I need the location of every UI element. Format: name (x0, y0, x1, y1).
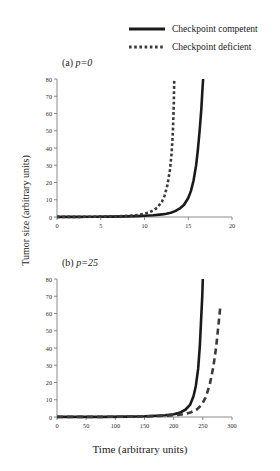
y-tick-label: 50 (46, 327, 52, 334)
chart-panel-b: (b) p=25 0102030405060708005010015020025… (0, 255, 280, 435)
y-tick-label: 0 (49, 214, 52, 221)
x-tick-label: 150 (140, 422, 149, 429)
panel-a-title-param: p=0 (76, 57, 93, 68)
y-tick-label: 20 (46, 179, 52, 186)
series-line-dashed (57, 307, 220, 417)
legend-label-deficient: Checkpoint deficient (172, 42, 251, 52)
y-tick-label: 30 (46, 362, 52, 369)
figure-container: Checkpoint competent Checkpoint deficien… (0, 0, 280, 471)
plot-area-a: 0102030405060708005101520 (0, 69, 280, 239)
x-tick-label: 300 (227, 422, 236, 429)
y-tick-label: 70 (46, 93, 52, 100)
x-tick-label: 10 (141, 222, 147, 229)
series-line-solid (57, 279, 203, 417)
panel-a-title-prefix: (a) (62, 57, 76, 68)
x-tick-label: 200 (169, 422, 178, 429)
x-tick-label: 0 (55, 222, 58, 229)
x-axis-title: Time (arbitrary units) (0, 443, 280, 455)
x-tick-label: 50 (83, 422, 89, 429)
x-tick-label: 100 (111, 422, 120, 429)
y-tick-label: 10 (46, 196, 52, 203)
legend-label-competent: Checkpoint competent (172, 24, 258, 34)
legend: Checkpoint competent Checkpoint deficien… (128, 20, 280, 56)
y-tick-label: 0 (49, 414, 52, 421)
y-tick-label: 30 (46, 162, 52, 169)
x-tick-label: 0 (55, 422, 58, 429)
chart-panel-a: (a) p=0 0102030405060708005101520 (0, 55, 280, 240)
legend-entry-deficient: Checkpoint deficient (128, 38, 280, 56)
x-tick-label: 20 (229, 222, 235, 229)
plot-area-b: 01020304050607080050100150200250300 (0, 269, 280, 439)
y-tick-label: 80 (46, 276, 52, 283)
y-tick-label: 60 (46, 110, 52, 117)
dotted-line-icon (128, 40, 166, 54)
y-tick-label: 70 (46, 293, 52, 300)
y-tick-label: 60 (46, 310, 52, 317)
y-tick-label: 40 (46, 345, 52, 352)
y-tick-label: 20 (46, 379, 52, 386)
y-tick-label: 50 (46, 127, 52, 134)
x-tick-label: 5 (99, 222, 102, 229)
y-tick-label: 40 (46, 145, 52, 152)
x-tick-label: 15 (185, 222, 191, 229)
y-tick-label: 10 (46, 396, 52, 403)
x-tick-label: 250 (198, 422, 207, 429)
legend-entry-competent: Checkpoint competent (128, 20, 280, 38)
solid-line-icon (128, 22, 166, 36)
panel-b-title-param: p=25 (76, 257, 98, 268)
panel-b-title: (b) p=25 (62, 257, 98, 268)
series-line-dotted (57, 79, 174, 217)
y-tick-label: 80 (46, 76, 52, 83)
panel-a-title: (a) p=0 (62, 57, 92, 68)
series-line-solid (57, 79, 203, 217)
panel-b-title-prefix: (b) (62, 257, 76, 268)
